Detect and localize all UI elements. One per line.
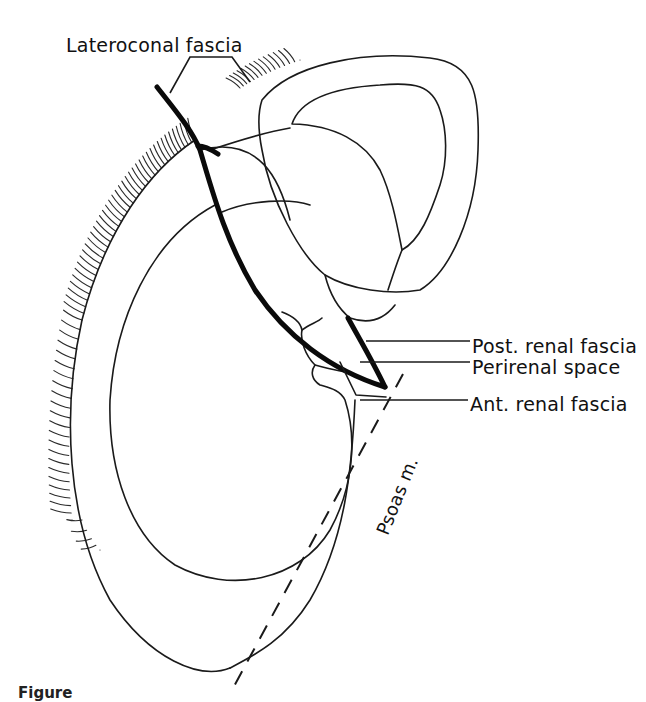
lateroconal-leader [170,57,250,93]
label-perirenal-space: Perirenal space [472,356,620,378]
body-wall-outline [70,140,230,671]
kidney-outline [110,205,352,580]
hilum-notch-upper [302,318,322,330]
label-posterior-renal-fascia: Post. renal fascia [472,335,637,357]
upper-organ-divider [388,250,402,290]
upper-organ-inner [292,84,446,250]
upper-organ-outer [259,56,478,292]
label-anterior-renal-fascia: Ant. renal fascia [470,393,628,415]
fascia-top-connector [210,128,290,150]
renal-inner-contour [222,201,310,212]
adjacent-organ-lower [325,275,395,321]
figure-caption: Figure [18,684,72,702]
label-lateroconal-fascia: Lateroconal fascia [66,34,243,56]
perirenal-outer-contour [200,147,290,220]
psoas-outer-boundary [230,400,355,668]
